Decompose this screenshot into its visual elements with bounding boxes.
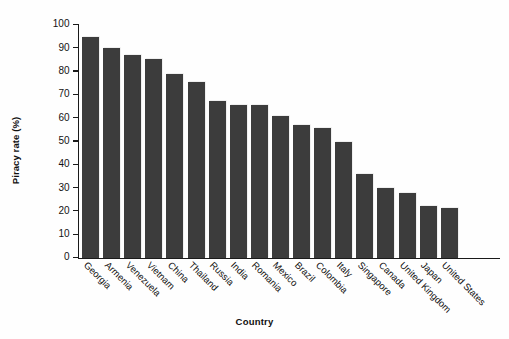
y-axis-tick: 90 (73, 47, 79, 48)
bar (230, 105, 247, 258)
bar (166, 74, 183, 258)
y-axis-title: Piracy rate (%) (7, 95, 25, 205)
bar (124, 55, 141, 258)
bar (356, 174, 373, 258)
bar (82, 37, 99, 258)
y-axis-tick-label: 20 (58, 206, 69, 216)
y-axis-tick: 80 (73, 70, 79, 71)
x-axis-tick-label: United States (440, 260, 487, 307)
bar (420, 206, 437, 258)
bar (103, 48, 120, 258)
bar (335, 142, 352, 259)
y-axis-title-text: Piracy rate (%) (11, 116, 22, 184)
y-axis-tick: 70 (73, 94, 79, 95)
bar (399, 193, 416, 258)
bar (188, 82, 205, 258)
y-axis-tick: 40 (73, 164, 79, 165)
y-axis-tick-label: 60 (58, 113, 69, 123)
plot-area: 0102030405060708090100 (79, 25, 500, 258)
y-axis-tick-label: 0 (64, 252, 70, 262)
bar (314, 128, 331, 258)
y-axis-tick-label: 100 (53, 19, 70, 29)
bar-chart-figure: Piracy rate (%) 0102030405060708090100 G… (0, 0, 509, 339)
y-axis-tick: 30 (73, 187, 79, 188)
y-axis-tick: 100 (73, 24, 79, 25)
bar (145, 59, 162, 258)
y-axis-tick: 10 (73, 234, 79, 235)
y-axis-tick: 50 (73, 140, 79, 141)
bar-series (79, 25, 500, 258)
y-axis-tick-label: 80 (58, 66, 69, 76)
x-axis-tick-labels: GeorgiaArmeniaVenezuelaVietnamChinaThail… (79, 260, 500, 320)
y-axis-tick: 60 (73, 117, 79, 118)
y-axis-tick-label: 10 (58, 229, 69, 239)
y-axis-tick: 20 (73, 210, 79, 211)
y-axis-tick-label: 50 (58, 136, 69, 146)
y-axis-tick-label: 30 (58, 183, 69, 193)
y-axis-tick: 0 (73, 257, 79, 258)
y-axis-tick-label: 40 (58, 159, 69, 169)
bar (441, 208, 458, 258)
bar (209, 101, 226, 258)
bar (272, 116, 289, 258)
bar (251, 105, 268, 258)
y-axis-tick-label: 90 (58, 43, 69, 53)
x-axis-title: Country (0, 316, 509, 327)
bar (293, 125, 310, 258)
y-axis-tick-label: 70 (58, 89, 69, 99)
bar (377, 188, 394, 258)
